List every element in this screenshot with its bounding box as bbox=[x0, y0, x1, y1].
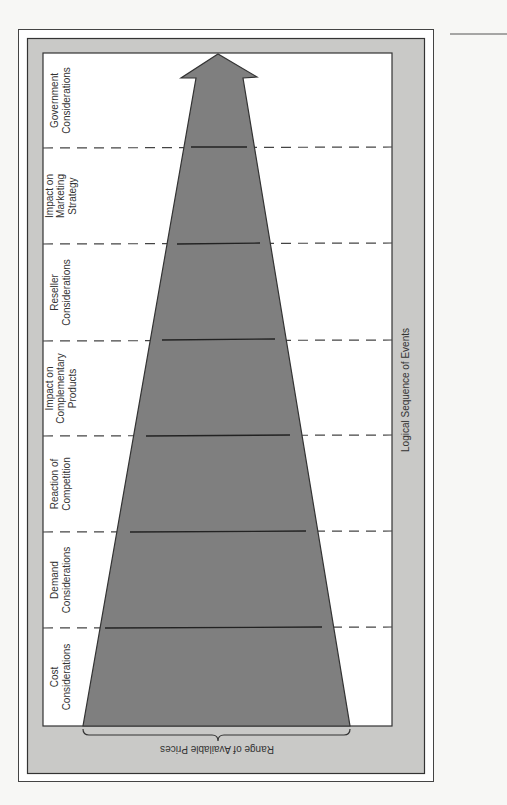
stage-label: GovernmentConsiderations bbox=[49, 67, 72, 134]
stage-label: Impact onMarketingStrategy bbox=[44, 174, 78, 218]
stage-label: Reaction ofCompetition bbox=[49, 457, 72, 510]
pricing-funnel-diagram: GovernmentConsiderationsImpact onMarketi… bbox=[0, 0, 507, 805]
axis-label-logical-sequence: Logical Sequence of Events bbox=[400, 328, 411, 452]
axis-label-price-range: Range of Available Prices bbox=[160, 744, 274, 755]
